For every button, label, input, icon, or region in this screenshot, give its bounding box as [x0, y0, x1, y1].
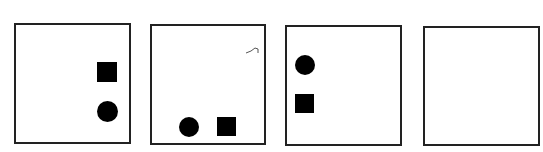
circle-shape	[295, 55, 315, 75]
circle-shape	[97, 101, 118, 122]
square-shape	[97, 62, 117, 82]
panel-3	[285, 25, 402, 146]
scribble-mark-icon	[245, 46, 261, 56]
square-shape	[295, 94, 314, 113]
circle-shape	[179, 117, 199, 137]
panel-1	[14, 23, 131, 144]
panel-2	[150, 24, 266, 145]
panel-4-answer	[423, 26, 540, 146]
square-shape	[217, 117, 236, 136]
